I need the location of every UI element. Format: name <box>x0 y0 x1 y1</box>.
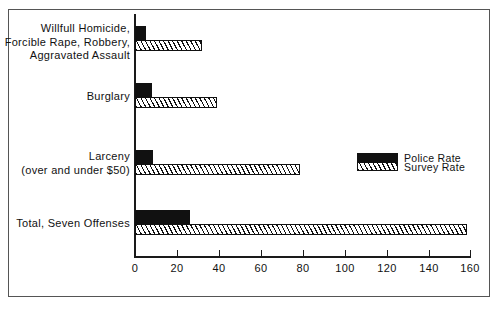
bar-police-violent <box>135 26 146 40</box>
legend-swatch-police-icon <box>357 153 398 162</box>
category-label-violent: Willfull Homicide, Forcible Rape, Robber… <box>0 22 130 63</box>
bar-chart-figure: 0 20 40 60 80 100 120 140 160 Willfull H… <box>0 0 500 309</box>
x-ticklabel-40: 40 <box>212 262 225 274</box>
bar-police-larceny <box>135 150 153 164</box>
bar-police-burglary <box>135 83 152 97</box>
category-label-larceny-line2: (over and under $50) <box>0 164 130 178</box>
x-ticklabel-100: 100 <box>335 262 355 274</box>
x-tick-100 <box>345 250 346 257</box>
legend-swatch-survey-icon <box>357 162 398 171</box>
category-label-burglary-line1: Burglary <box>0 90 130 104</box>
legend-label-survey: Survey Rate <box>404 162 465 172</box>
x-ticklabel-120: 120 <box>377 262 397 274</box>
x-tick-60 <box>261 250 262 257</box>
x-tick-20 <box>177 250 178 257</box>
bar-survey-burglary <box>135 97 217 108</box>
x-tick-40 <box>219 250 220 257</box>
x-tick-80 <box>303 250 304 257</box>
x-ticklabel-20: 20 <box>170 262 183 274</box>
x-tick-140 <box>429 250 430 257</box>
bar-survey-larceny <box>135 164 300 175</box>
x-tick-0 <box>135 250 136 257</box>
category-label-larceny-line1: Larceny <box>0 150 130 164</box>
category-label-violent-line3: Aggravated Assault <box>0 49 130 63</box>
category-label-total-line1: Total, Seven Offenses <box>0 217 130 231</box>
category-label-violent-line2: Forcible Rape, Robbery, <box>0 36 130 50</box>
category-label-total: Total, Seven Offenses <box>0 217 130 231</box>
x-ticklabel-80: 80 <box>296 262 309 274</box>
chart-legend: Police Rate Survey Rate <box>357 153 465 171</box>
x-tick-160 <box>470 250 471 257</box>
bar-survey-violent <box>135 40 202 51</box>
bar-survey-total <box>135 224 467 235</box>
bar-police-total <box>135 210 190 224</box>
category-label-violent-line1: Willfull Homicide, <box>0 22 130 36</box>
x-ticklabel-0: 0 <box>132 262 139 274</box>
x-ticklabel-140: 140 <box>419 262 439 274</box>
category-label-burglary: Burglary <box>0 90 130 104</box>
x-ticklabel-160: 160 <box>460 262 480 274</box>
category-label-larceny: Larceny (over and under $50) <box>0 150 130 177</box>
x-ticklabel-60: 60 <box>254 262 267 274</box>
x-tick-120 <box>387 250 388 257</box>
plot-area: 0 20 40 60 80 100 120 140 160 Willfull H… <box>0 0 500 309</box>
legend-item-survey: Survey Rate <box>357 162 465 171</box>
